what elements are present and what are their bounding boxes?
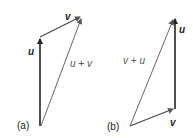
resultant-u-plus-v-arrow (41, 19, 81, 126)
vector-u-label: u (28, 46, 34, 57)
panel-b: u v v + u (b) (107, 19, 185, 132)
panel-b-label: (b) (107, 121, 119, 132)
resultant-v-plus-u-arrow (130, 20, 173, 126)
vector-v-label: v (170, 117, 177, 128)
sum-label: u + v (70, 58, 93, 69)
vector-v-arrow (130, 109, 173, 126)
sum-label: v + u (123, 55, 145, 66)
panel-a: u v u + v (a) (17, 11, 93, 131)
diagram-canvas: u v u + v (a) u v v + u (b) (0, 0, 193, 138)
vector-v-arrow (40, 17, 80, 37)
panel-a-label: (a) (17, 120, 29, 131)
vector-u-label: u (179, 24, 185, 35)
vector-addition-diagram: u v u + v (a) u v v + u (b) (0, 0, 193, 138)
vector-v-label: v (65, 11, 72, 22)
